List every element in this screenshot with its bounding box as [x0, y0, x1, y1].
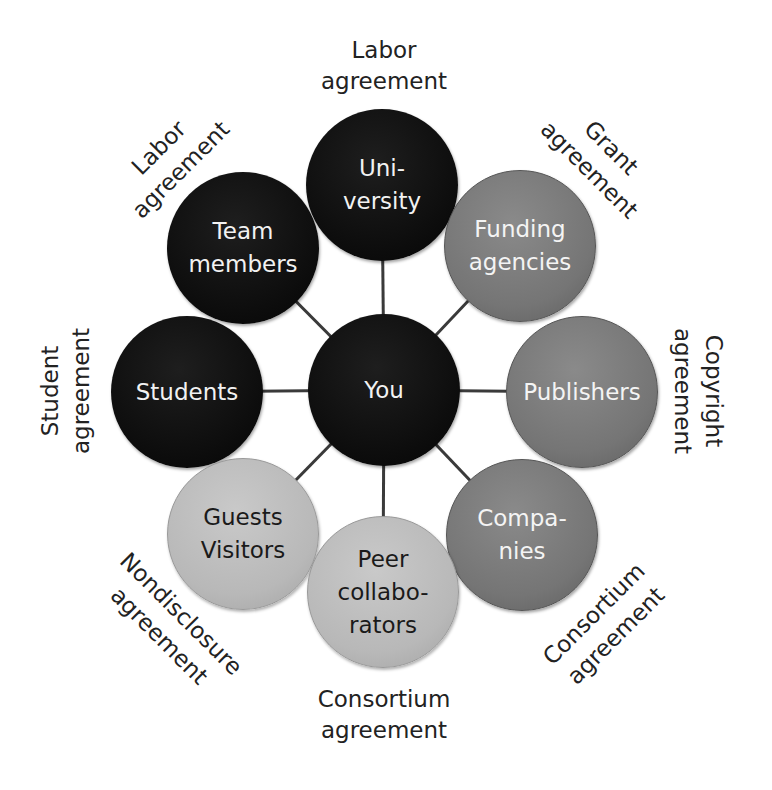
node-guests-visitors: Guests Visitors — [167, 458, 319, 610]
node-funding-agencies: Funding agencies — [444, 170, 596, 322]
node-guests-visitors-label: Guests Visitors — [201, 501, 286, 567]
node-students: Students — [111, 316, 263, 468]
node-companies-label: Compa- nies — [477, 502, 567, 568]
node-peer-collaborators-label: Peer collabo- rators — [338, 543, 429, 642]
node-university: Uni- versity — [306, 109, 458, 261]
node-peer-collaborators: Peer collabo- rators — [307, 516, 459, 668]
relationship-diagram: Uni- versity Funding agencies Team membe… — [0, 0, 772, 790]
node-you-label: You — [364, 374, 404, 407]
label-university-agreement: Labor agreement — [304, 35, 464, 97]
node-students-label: Students — [136, 376, 239, 409]
node-publishers-label: Publishers — [523, 376, 641, 409]
node-team-members-label: Team members — [188, 215, 297, 281]
label-peer-collaborators-agreement: Consortium agreement — [294, 684, 474, 746]
node-companies: Compa- nies — [446, 459, 598, 611]
node-university-label: Uni- versity — [343, 152, 421, 218]
label-students-agreement: Student agreement — [35, 311, 97, 471]
node-publishers: Publishers — [506, 316, 658, 468]
node-team-members: Team members — [167, 172, 319, 324]
node-funding-agencies-label: Funding agencies — [469, 213, 572, 279]
node-you: You — [308, 314, 460, 466]
label-publishers-agreement: Copyright agreement — [667, 311, 729, 471]
